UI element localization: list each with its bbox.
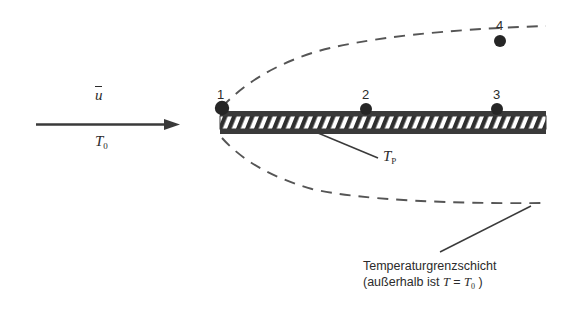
freestream-arrow (36, 119, 180, 130)
point-marker-1 (215, 101, 229, 115)
caption-equals: = (450, 275, 464, 289)
point-label-3: 3 (493, 88, 500, 101)
freestream-velocity-label: u (95, 86, 103, 103)
point-marker-3 (491, 103, 503, 115)
freestream-temperature-label: T0 (95, 134, 108, 149)
temperature-subscript: 0 (103, 141, 108, 151)
point-marker-4 (494, 35, 506, 47)
plate-temperature-leader-line (318, 133, 378, 158)
plate-temperature-subscript: P (391, 156, 396, 166)
caption-symbol-t: T (443, 275, 450, 289)
caption-prefix: (außerhalb ist (363, 275, 443, 289)
caption-line-1: Temperaturgrenzschicht (363, 258, 496, 274)
plate-bottom-edge (220, 129, 546, 134)
point-label-4: 4 (496, 19, 503, 32)
figure-canvas: u T0 TP 1 2 3 4 Temperaturgrenzschicht (… (0, 0, 579, 313)
caption-symbol-t0: T0 (464, 275, 475, 289)
boundary-layer-caption: Temperaturgrenzschicht (außerhalb ist T … (363, 258, 496, 290)
caption-suffix: ) (475, 275, 483, 289)
caption-line-2: (außerhalb ist T = T0 ) (363, 274, 496, 290)
point-label-2: 2 (362, 88, 369, 101)
plate-hatched-core (220, 116, 546, 129)
point-label-1: 1 (217, 88, 224, 101)
plate-temperature-label: TP (383, 149, 396, 164)
velocity-symbol: u (95, 86, 103, 103)
boundary-layer-caption-leader-line (440, 206, 531, 252)
point-marker-2 (360, 103, 372, 115)
caption-subscript: 0 (471, 282, 475, 291)
